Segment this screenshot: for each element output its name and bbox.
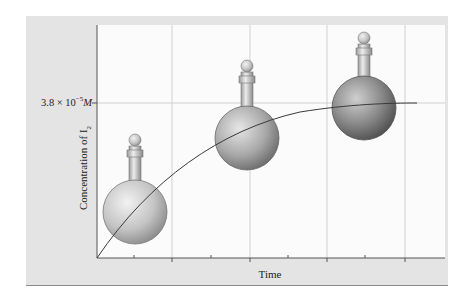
x-axis-title: Time xyxy=(240,268,300,280)
flask-late xyxy=(332,32,396,140)
y-axis-title: Concentration of I2 xyxy=(77,98,92,238)
flask-middle xyxy=(215,60,279,170)
chart-graphics xyxy=(0,0,476,306)
flask-early xyxy=(103,134,167,244)
